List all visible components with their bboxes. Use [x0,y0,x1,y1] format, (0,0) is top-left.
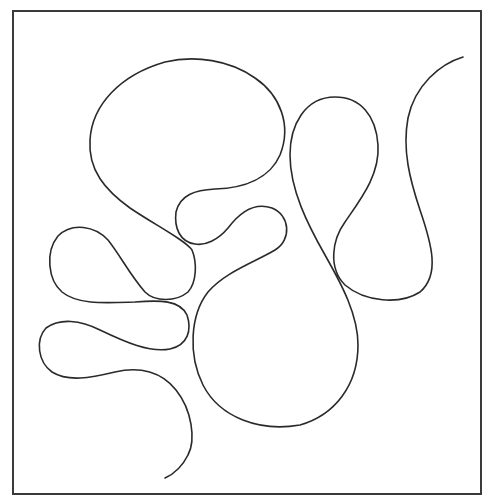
drawing-canvas [0,0,490,502]
continuous-curve [39,57,463,478]
